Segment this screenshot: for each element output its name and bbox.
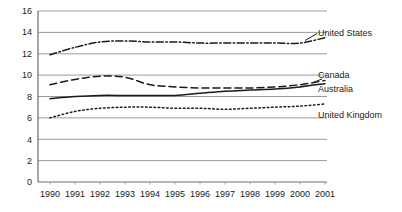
x-tick-1997: 1997 (212, 189, 238, 199)
series-lines (50, 38, 325, 118)
y-tick-16: 16 (14, 6, 32, 16)
series-line-canada (50, 76, 325, 88)
y-tick-2: 2 (14, 156, 32, 166)
x-tick-1994: 1994 (137, 189, 163, 199)
x-tick-1996: 1996 (187, 189, 213, 199)
series-label-canada: Canada (318, 70, 350, 80)
y-tick-8: 8 (14, 92, 32, 102)
series-label-united-kingdom: United Kingdom (318, 110, 382, 120)
x-tick-1993: 1993 (112, 189, 138, 199)
x-tick-1995: 1995 (162, 189, 188, 199)
y-tick-0: 0 (14, 177, 32, 187)
series-line-united-kingdom (50, 104, 325, 118)
series-line-united-states (50, 38, 325, 55)
x-tick-1990: 1990 (37, 189, 63, 199)
x-tick-1991: 1991 (62, 189, 88, 199)
x-tick-2000: 2000 (287, 189, 313, 199)
y-tick-6: 6 (14, 113, 32, 123)
x-tick-1998: 1998 (237, 189, 263, 199)
series-label-australia: Australia (318, 84, 353, 94)
y-tick-12: 12 (14, 49, 32, 59)
y-tick-10: 10 (14, 70, 32, 80)
x-tick-2001: 2001 (312, 189, 338, 199)
series-label-united-states: United States (318, 28, 372, 38)
line-chart: 16 14 12 10 8 6 4 2 0 1990 1991 1992 199… (0, 0, 402, 212)
y-tick-14: 14 (14, 27, 32, 37)
y-tick-4: 4 (14, 135, 32, 145)
x-tick-1999: 1999 (262, 189, 288, 199)
x-tick-1992: 1992 (87, 189, 113, 199)
